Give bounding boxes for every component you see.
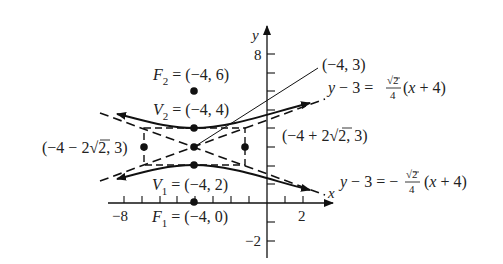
svg-text:(x + 4): (x + 4) [403, 79, 446, 97]
vertex-v2-label: V2 = (−4, 4) [153, 101, 229, 122]
vertex-v2-dot [190, 124, 198, 132]
y-axis: y 8 −2 [245, 26, 275, 258]
y-axis-ticks [267, 54, 275, 241]
svg-text:(−4 − 2√2, 3): (−4 − 2√2, 3) [42, 139, 127, 157]
y-tick-label-8: 8 [254, 47, 262, 63]
focus-f1-dot [190, 198, 198, 206]
focus-f2-label: F2 = (−4, 6) [152, 66, 229, 87]
vertex-v1-label: V1 = (−4, 2) [152, 176, 228, 197]
svg-text:y − 3 =: y − 3 = [326, 79, 373, 97]
fraction-numerator: √2 [387, 74, 399, 86]
vertex-v1-dot [190, 161, 198, 169]
conjugate-right-label: (−4 + 2√2, 3) [282, 127, 367, 145]
x-tick-label-neg8: −8 [112, 208, 128, 224]
focus-f1-label: F1 = (−4, 0) [151, 208, 228, 229]
sqrt-symbol: √ [329, 127, 338, 144]
asymptote-equation-negative: y − 3 = − √2 4 (x + 4) [338, 168, 467, 195]
svg-text:y − 3 = −: y − 3 = − [338, 173, 398, 191]
x-axis-label: x [327, 185, 335, 201]
fraction-denominator: 4 [390, 89, 396, 101]
svg-text:(−4 + 2√2, 3): (−4 + 2√2, 3) [282, 127, 367, 145]
x-axis-ticks [124, 196, 303, 203]
conjugate-right-dot [241, 143, 249, 151]
fraction-numerator: √2 [406, 168, 418, 180]
fraction-denominator: 4 [409, 183, 415, 195]
y-tick-label-neg2: −2 [245, 233, 261, 249]
focus-f2-dot [190, 87, 198, 95]
asymptote-equation-positive: y − 3 = √2 4 (x + 4) [326, 74, 446, 101]
center-label: (−4, 3) [322, 56, 366, 74]
y-axis-label: y [250, 27, 259, 43]
x-tick-label-2: 2 [298, 208, 306, 224]
svg-text:(x + 4): (x + 4) [424, 173, 467, 191]
center-dot [190, 143, 198, 151]
hyperbola-diagram: x −8 2 y 8 −2 [0, 0, 503, 264]
sqrt-symbol: √ [89, 139, 98, 156]
conjugate-left-dot [140, 143, 148, 151]
conjugate-left-label: (−4 − 2√2, 3) [42, 139, 127, 157]
